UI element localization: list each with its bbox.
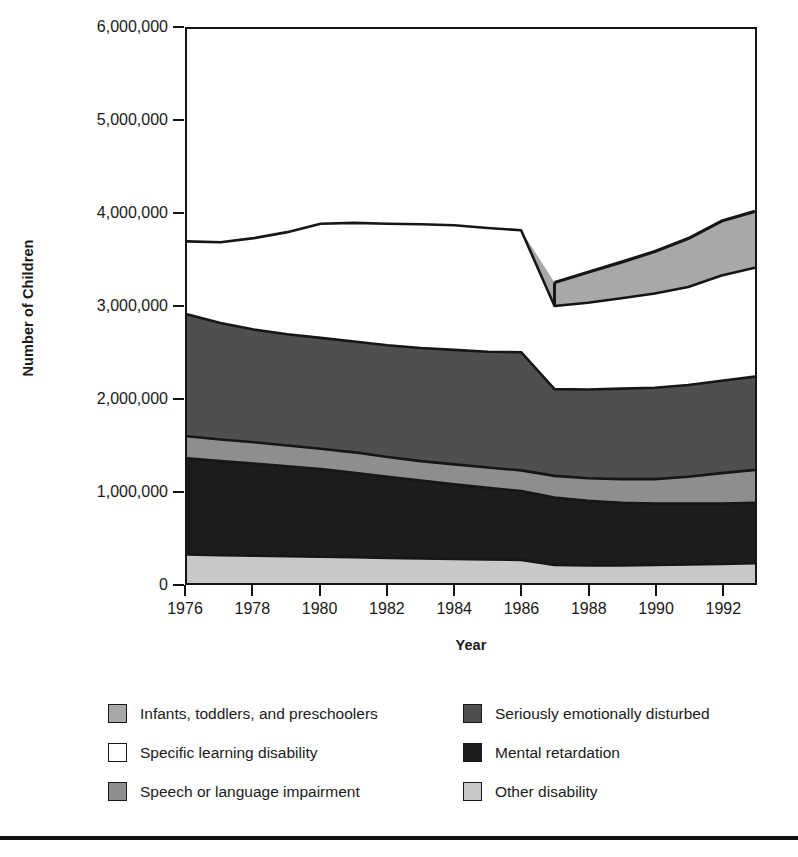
- legend-item[interactable]: Infants, toddlers, and preschoolers: [108, 704, 463, 723]
- x-axis-tick-label: 1992: [683, 600, 763, 618]
- legend-item-label: Specific learning disability: [140, 744, 317, 761]
- legend-color-swatch: [463, 704, 482, 723]
- x-axis-tick-mark: [386, 585, 388, 596]
- legend-item-label: Infants, toddlers, and preschoolers: [140, 705, 378, 722]
- legend-item[interactable]: Specific learning disability: [108, 743, 463, 762]
- y-axis-tick-mark: [173, 491, 184, 493]
- y-axis-tick-label: 2,000,000: [28, 391, 168, 407]
- x-axis-tick-mark: [251, 585, 253, 596]
- legend-row: Speech or language impairmentOther disab…: [108, 772, 758, 811]
- legend-item[interactable]: Mental retardation: [463, 743, 758, 762]
- x-axis-title: Year: [185, 637, 757, 653]
- x-axis-tick-mark: [588, 585, 590, 596]
- legend-item[interactable]: Other disability: [463, 782, 758, 801]
- legend-color-swatch: [108, 782, 127, 801]
- x-axis-tick-mark: [722, 585, 724, 596]
- y-axis-tick-mark: [173, 26, 184, 28]
- y-axis-tick-mark: [173, 584, 184, 586]
- y-axis-tick-label: 1,000,000: [28, 484, 168, 500]
- legend-color-swatch: [108, 743, 127, 762]
- x-axis-tick-mark: [319, 585, 321, 596]
- bottom-divider-rule: [0, 836, 798, 840]
- x-axis-tick-mark: [655, 585, 657, 596]
- x-axis-tick-mark: [453, 585, 455, 596]
- legend-item[interactable]: Speech or language impairment: [108, 782, 463, 801]
- y-axis-tick-label: 0: [28, 577, 168, 593]
- y-axis-tick-label: 4,000,000: [28, 205, 168, 221]
- y-axis-tick-label: 5,000,000: [28, 112, 168, 128]
- chart-legend: Infants, toddlers, and preschoolersSerio…: [108, 694, 758, 811]
- y-axis-tick-label: 3,000,000: [28, 298, 168, 314]
- x-axis-tick-mark: [520, 585, 522, 596]
- figure: Number of Children 01,000,0002,000,0003,…: [0, 0, 798, 857]
- legend-color-swatch: [463, 782, 482, 801]
- stacked-area-plot: [187, 29, 755, 583]
- legend-item[interactable]: Seriously emotionally disturbed: [463, 704, 758, 723]
- legend-item-label: Mental retardation: [495, 744, 620, 761]
- y-axis-tick-mark: [173, 212, 184, 214]
- legend-item-label: Speech or language impairment: [140, 783, 360, 800]
- legend-row: Infants, toddlers, and preschoolersSerio…: [108, 694, 758, 733]
- y-axis-tick-label: 6,000,000: [28, 19, 168, 35]
- y-axis-tick-mark: [173, 398, 184, 400]
- x-axis-tick-mark: [184, 585, 186, 596]
- legend-item-label: Seriously emotionally disturbed: [495, 705, 710, 722]
- legend-row: Specific learning disabilityMental retar…: [108, 733, 758, 772]
- plot-area: [185, 27, 757, 585]
- legend-item-label: Other disability: [495, 783, 598, 800]
- legend-color-swatch: [463, 743, 482, 762]
- y-axis-tick-mark: [173, 305, 184, 307]
- legend-color-swatch: [108, 704, 127, 723]
- y-axis-tick-mark: [173, 119, 184, 121]
